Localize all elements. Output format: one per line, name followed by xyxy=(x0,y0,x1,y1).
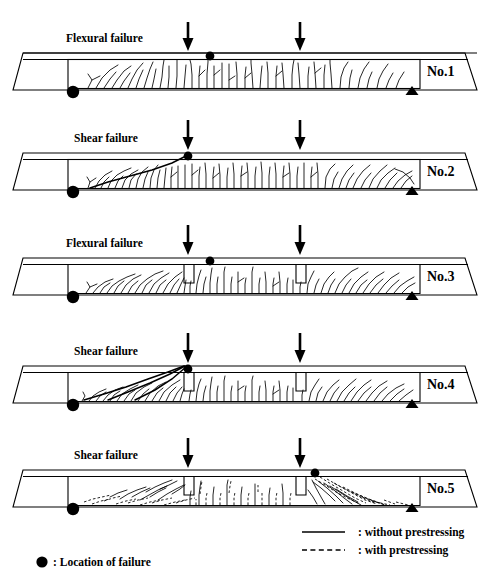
failure-mode-label-no2: Shear failure xyxy=(74,132,138,144)
load-arrow-left-no5 xyxy=(183,438,194,468)
beam-label-no4: No.4 xyxy=(427,377,455,392)
failure-marker-no1 xyxy=(206,52,215,61)
failure-mode-label-no4: Shear failure xyxy=(74,345,138,357)
beam-label-no1: No.1 xyxy=(427,64,455,79)
panel-no5 xyxy=(68,477,420,506)
left-support-no5 xyxy=(67,503,79,515)
panel-no3 xyxy=(68,265,420,294)
load-arrow-right-no2 xyxy=(295,120,306,150)
legend-line-style: : without prestressing : with prestressi… xyxy=(302,526,465,557)
left-support-no1 xyxy=(67,86,79,98)
left-support-no4 xyxy=(67,399,79,411)
legend-solid-label: : without prestressing xyxy=(358,526,465,539)
load-arrow-right-no4 xyxy=(295,333,306,363)
beam-label-no2: No.2 xyxy=(427,164,455,179)
legend-failure-dot xyxy=(36,556,47,567)
legend-dashed-label: : with prestressing xyxy=(358,544,449,557)
panel-no4 xyxy=(68,373,420,402)
load-arrow-left-no1 xyxy=(183,22,194,51)
legend-failure-marker: : Location of failure xyxy=(36,556,150,568)
failure-mode-label-no5: Shear failure xyxy=(74,449,138,461)
failure-mode-label-no3: Flexural failure xyxy=(66,237,143,249)
figure-canvas: Flexural failure No.1 xyxy=(0,0,492,586)
load-arrow-right-no3 xyxy=(295,225,306,255)
load-arrow-left-no3 xyxy=(183,225,194,255)
load-arrow-right-no5 xyxy=(295,438,306,468)
left-support-no3 xyxy=(67,291,79,303)
failure-marker-no3 xyxy=(206,257,215,266)
failure-marker-no5 xyxy=(311,469,320,478)
load-arrow-left-no4 xyxy=(183,333,194,363)
legend-failure-label: : Location of failure xyxy=(53,556,151,568)
beam-label-no3: No.3 xyxy=(427,269,455,284)
load-arrow-right-no1 xyxy=(295,22,306,51)
beam-crack-diagram: Flexural failure No.1 xyxy=(0,0,492,586)
beam-label-no5: No.5 xyxy=(427,481,455,496)
load-arrow-left-no2 xyxy=(183,120,194,150)
failure-marker-no2 xyxy=(184,152,193,161)
failure-marker-no4 xyxy=(184,365,193,374)
failure-mode-label-no1: Flexural failure xyxy=(66,32,143,44)
left-support-no2 xyxy=(67,186,79,198)
